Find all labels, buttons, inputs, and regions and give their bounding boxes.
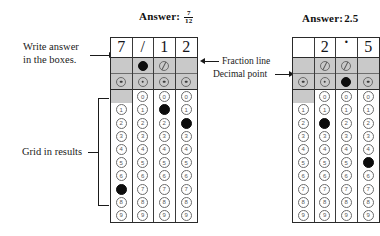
right-digit-cell-3-7[interactable]: 7 bbox=[336, 182, 357, 195]
right-digit-bubble-4-7[interactable]: 7 bbox=[363, 184, 374, 195]
right-digit-bubble-2-2[interactable]: 2 bbox=[319, 118, 330, 129]
left-digit-bubble-3-1[interactable]: 1 bbox=[159, 104, 170, 115]
left-digit-bubble-3-3[interactable]: 3 bbox=[159, 131, 170, 142]
left-digit-cell-3-1[interactable]: 1 bbox=[154, 103, 175, 116]
right-digit-bubble-2-6[interactable]: 6 bbox=[319, 170, 330, 181]
right-fraction-line-cell-3[interactable] bbox=[336, 58, 357, 74]
left-digit-bubble-1-4[interactable]: 4 bbox=[116, 144, 127, 155]
left-digit-bubble-2-4[interactable]: 4 bbox=[137, 144, 148, 155]
left-digit-cell-1-1[interactable]: 1 bbox=[111, 103, 132, 116]
left-grid-column-2[interactable]: /0123456789 bbox=[133, 38, 155, 222]
left-fraction-line-bubble-2[interactable] bbox=[138, 61, 148, 71]
left-decimal-point-cell-1[interactable] bbox=[111, 74, 132, 90]
right-decimal-point-cell-4[interactable] bbox=[358, 74, 380, 90]
left-digit-cell-3-7[interactable]: 7 bbox=[154, 182, 175, 195]
right-digit-bubble-4-2[interactable]: 2 bbox=[363, 118, 374, 129]
right-digit-bubble-3-0[interactable]: 0 bbox=[341, 91, 352, 102]
right-write-box-1[interactable] bbox=[293, 38, 314, 58]
right-digit-cell-3-2[interactable]: 2 bbox=[336, 116, 357, 129]
right-digit-cell-4-7[interactable]: 7 bbox=[358, 182, 380, 195]
right-digit-cell-3-3[interactable]: 3 bbox=[336, 130, 357, 143]
left-digit-cell-3-3[interactable]: 3 bbox=[154, 130, 175, 143]
left-digit-bubble-2-8[interactable]: 8 bbox=[137, 197, 148, 208]
right-grid-column-1[interactable]: 123456789 bbox=[293, 38, 315, 222]
left-digit-cell-4-4[interactable]: 4 bbox=[176, 143, 198, 156]
right-digit-cell-4-9[interactable]: 9 bbox=[358, 209, 380, 222]
left-digit-bubble-3-7[interactable]: 7 bbox=[159, 184, 170, 195]
left-digit-bubble-3-6[interactable]: 6 bbox=[159, 170, 170, 181]
left-digit-bubble-4-6[interactable]: 6 bbox=[181, 170, 192, 181]
right-digit-cell-2-0[interactable]: 0 bbox=[315, 90, 336, 103]
right-digit-cell-3-0[interactable]: 0 bbox=[336, 90, 357, 103]
left-digit-cell-3-4[interactable]: 4 bbox=[154, 143, 175, 156]
left-digit-bubble-3-5[interactable]: 5 bbox=[159, 157, 170, 168]
left-grid-column-4[interactable]: 20123456789 bbox=[176, 38, 198, 222]
right-digit-cell-2-9[interactable]: 9 bbox=[315, 209, 336, 222]
left-digit-bubble-3-4[interactable]: 4 bbox=[159, 144, 170, 155]
right-digit-bubble-4-0[interactable]: 0 bbox=[363, 91, 374, 102]
left-decimal-point-bubble-4[interactable] bbox=[181, 77, 191, 87]
left-digit-cell-2-2[interactable]: 2 bbox=[133, 116, 154, 129]
right-write-box-4[interactable]: 5 bbox=[358, 38, 380, 58]
right-digit-cell-1-1[interactable]: 1 bbox=[293, 103, 314, 116]
right-digit-bubble-3-3[interactable]: 3 bbox=[341, 131, 352, 142]
right-digit-cell-2-6[interactable]: 6 bbox=[315, 169, 336, 182]
left-decimal-point-bubble-1[interactable] bbox=[116, 77, 126, 87]
left-digit-bubble-4-9[interactable]: 9 bbox=[181, 210, 192, 221]
right-digit-cell-2-1[interactable]: 1 bbox=[315, 103, 336, 116]
left-digit-cell-1-2[interactable]: 2 bbox=[111, 116, 132, 129]
right-decimal-point-cell-2[interactable] bbox=[315, 74, 336, 90]
right-digit-bubble-4-1[interactable]: 1 bbox=[363, 104, 374, 115]
left-digit-cell-1-7[interactable]: 7 bbox=[111, 182, 132, 195]
left-digit-cell-1-6[interactable]: 6 bbox=[111, 169, 132, 182]
left-digit-cell-4-1[interactable]: 1 bbox=[176, 103, 198, 116]
left-digit-cell-2-5[interactable]: 5 bbox=[133, 156, 154, 169]
left-write-box-3[interactable]: 1 bbox=[154, 38, 175, 58]
right-digit-bubble-2-9[interactable]: 9 bbox=[319, 210, 330, 221]
left-digit-bubble-2-0[interactable]: 0 bbox=[137, 91, 148, 102]
right-digit-bubble-1-2[interactable]: 2 bbox=[298, 118, 309, 129]
right-digit-bubble-4-9[interactable]: 9 bbox=[363, 210, 374, 221]
right-digit-bubble-4-3[interactable]: 3 bbox=[363, 131, 374, 142]
left-digit-bubble-2-6[interactable]: 6 bbox=[137, 170, 148, 181]
left-digit-bubble-2-5[interactable]: 5 bbox=[137, 157, 148, 168]
right-digit-bubble-1-1[interactable]: 1 bbox=[298, 104, 309, 115]
right-digit-cell-1-7[interactable]: 7 bbox=[293, 182, 314, 195]
right-digit-bubble-2-8[interactable]: 8 bbox=[319, 197, 330, 208]
left-digit-cell-4-7[interactable]: 7 bbox=[176, 182, 198, 195]
right-digit-bubble-3-9[interactable]: 9 bbox=[341, 210, 352, 221]
left-digit-cell-2-4[interactable]: 4 bbox=[133, 143, 154, 156]
left-digit-cell-2-7[interactable]: 7 bbox=[133, 182, 154, 195]
right-write-box-2[interactable]: 2 bbox=[315, 38, 336, 58]
left-digit-cell-4-8[interactable]: 8 bbox=[176, 196, 198, 209]
left-digit-cell-1-8[interactable]: 8 bbox=[111, 196, 132, 209]
left-digit-cell-2-6[interactable]: 6 bbox=[133, 169, 154, 182]
left-decimal-point-bubble-2[interactable] bbox=[138, 77, 148, 87]
right-digit-bubble-3-6[interactable]: 6 bbox=[341, 170, 352, 181]
left-digit-cell-1-4[interactable]: 4 bbox=[111, 143, 132, 156]
right-digit-bubble-3-7[interactable]: 7 bbox=[341, 184, 352, 195]
right-digit-cell-1-3[interactable]: 3 bbox=[293, 130, 314, 143]
right-digit-bubble-2-3[interactable]: 3 bbox=[319, 131, 330, 142]
left-digit-cell-1-9[interactable]: 9 bbox=[111, 209, 132, 222]
right-digit-bubble-1-4[interactable]: 4 bbox=[298, 144, 309, 155]
left-decimal-point-cell-3[interactable] bbox=[154, 74, 175, 90]
left-digit-bubble-1-1[interactable]: 1 bbox=[116, 104, 127, 115]
left-decimal-point-bubble-3[interactable] bbox=[159, 77, 169, 87]
left-digit-bubble-4-1[interactable]: 1 bbox=[181, 104, 192, 115]
left-digit-cell-2-3[interactable]: 3 bbox=[133, 130, 154, 143]
right-digit-bubble-1-7[interactable]: 7 bbox=[298, 184, 309, 195]
right-digit-bubble-2-1[interactable]: 1 bbox=[319, 104, 330, 115]
right-digit-cell-4-2[interactable]: 2 bbox=[358, 116, 380, 129]
right-decimal-point-cell-1[interactable] bbox=[293, 74, 314, 90]
right-digit-cell-4-4[interactable]: 4 bbox=[358, 143, 380, 156]
right-write-box-3[interactable]: · bbox=[336, 38, 357, 58]
right-digit-cell-4-8[interactable]: 8 bbox=[358, 196, 380, 209]
right-decimal-point-bubble-3[interactable] bbox=[341, 77, 351, 87]
right-decimal-point-bubble-4[interactable] bbox=[363, 77, 373, 87]
left-digit-bubble-4-2[interactable]: 2 bbox=[181, 118, 192, 129]
left-digit-bubble-4-8[interactable]: 8 bbox=[181, 197, 192, 208]
left-decimal-point-cell-2[interactable] bbox=[133, 74, 154, 90]
left-digit-bubble-2-3[interactable]: 3 bbox=[137, 131, 148, 142]
left-digit-cell-2-8[interactable]: 8 bbox=[133, 196, 154, 209]
